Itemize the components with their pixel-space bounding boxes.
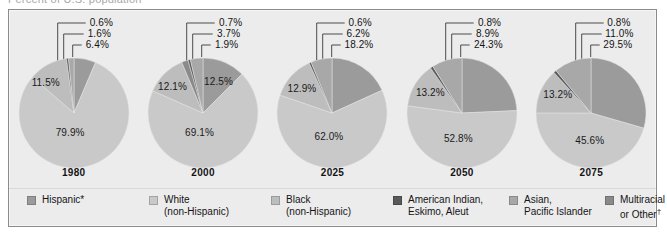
pie-inner-label: 13.2% xyxy=(543,89,572,100)
callout-label: 1.9% xyxy=(215,39,238,50)
legend-label: Multiracialor Other† xyxy=(620,194,665,220)
legend-swatch-icon xyxy=(27,196,36,205)
legend-divider xyxy=(9,188,656,189)
legend-label-line1: Black xyxy=(286,194,351,206)
pie-inner-label: 12.5% xyxy=(204,76,233,87)
legend-item-hispanic[interactable]: Hispanic* xyxy=(27,194,84,206)
callout-group-2050: 0.8%8.9%24.3% xyxy=(397,16,526,58)
callout-label: 24.3% xyxy=(474,39,503,50)
chart-legend: Hispanic*White(non-Hispanic)Black(non-Hi… xyxy=(9,188,656,226)
pie-inner-label: 62.0% xyxy=(314,131,343,142)
pie-inner-label: 52.8% xyxy=(444,133,473,144)
callout-label: 8.9% xyxy=(476,28,499,39)
legend-item-asian[interactable]: Asian,Pacific Islander xyxy=(509,194,592,217)
pie-inner-label: 11.5% xyxy=(32,77,60,88)
legend-label: Hispanic* xyxy=(42,194,84,206)
pie-inner-label: 13.2% xyxy=(416,87,445,98)
legend-label: White(non-Hispanic) xyxy=(164,194,229,217)
pie-inner-label: 69.1% xyxy=(185,127,214,138)
pie-2025: 12.9%62.0% xyxy=(276,57,388,169)
legend-label-line2: Pacific Islander xyxy=(524,206,592,218)
legend-item-multiracial[interactable]: Multiracialor Other† xyxy=(605,194,665,220)
pie-chart-1980: 0.6%1.6%6.4%11.5%79.9%1980 xyxy=(9,10,138,188)
callout-label: 6.4% xyxy=(86,39,109,50)
legend-swatch-icon xyxy=(149,196,158,205)
legend-swatch-icon xyxy=(509,196,518,205)
legend-item-american-indian[interactable]: American Indian,Eskimo, Aleut xyxy=(393,194,483,217)
callout-group-2075: 0.8%11.0%29.5% xyxy=(527,16,656,58)
pie-chart-row: 0.6%1.6%6.4%11.5%79.9%19800.7%3.7%1.9%12… xyxy=(9,10,656,188)
callout-label: 3.7% xyxy=(217,28,240,39)
callout-label: 0.8% xyxy=(607,17,630,28)
pie-2000: 12.1%12.5%69.1% xyxy=(147,57,259,169)
pie-year-label-2000: 2000 xyxy=(138,167,267,178)
legend-swatch-icon xyxy=(271,196,280,205)
callout-group-2025: 0.6%6.2%18.2% xyxy=(268,16,397,58)
clipped-title-text: Percent of U.S. population xyxy=(8,0,142,5)
callout-label: 18.2% xyxy=(344,39,373,50)
legend-dagger-marker: † xyxy=(657,207,661,216)
chart-panel: 0.6%1.6%6.4%11.5%79.9%19800.7%3.7%1.9%12… xyxy=(8,9,657,227)
pie-year-label-2050: 2050 xyxy=(397,167,526,178)
callout-group-2000: 0.7%3.7%1.9% xyxy=(138,16,267,58)
pie-chart-2050: 0.8%8.9%24.3%13.2%52.8%2050 xyxy=(397,10,526,188)
pie-slice-hispanic xyxy=(462,58,517,113)
pie-2050: 13.2%52.8% xyxy=(406,57,518,169)
pie-inner-label: 12.1% xyxy=(158,81,187,92)
legend-label-line1: Asian, xyxy=(524,194,592,206)
legend-label: Black(non-Hispanic) xyxy=(286,194,351,217)
pie-year-label-2025: 2025 xyxy=(268,167,397,178)
callout-label: 1.6% xyxy=(88,28,111,39)
legend-item-white[interactable]: White(non-Hispanic) xyxy=(149,194,229,217)
callout-label: 0.8% xyxy=(478,17,501,28)
legend-label-line1: American Indian, xyxy=(408,194,483,206)
legend-label-line1: White xyxy=(164,194,229,206)
pie-1980: 11.5%79.9% xyxy=(18,57,130,169)
pie-inner-label: 45.6% xyxy=(575,135,604,146)
legend-label-line2: or Other† xyxy=(620,206,665,221)
pie-chart-2075: 0.8%11.0%29.5%13.2%45.6%2075 xyxy=(527,10,656,188)
callout-label: 29.5% xyxy=(603,39,632,50)
pie-inner-label: 12.9% xyxy=(287,83,316,94)
legend-item-black[interactable]: Black(non-Hispanic) xyxy=(271,194,351,217)
legend-label-line2: Eskimo, Aleut xyxy=(408,206,483,218)
legend-label-line2: (non-Hispanic) xyxy=(286,206,351,218)
legend-label-line2: (non-Hispanic) xyxy=(164,206,229,218)
callout-label: 0.6% xyxy=(90,17,113,28)
legend-swatch-icon xyxy=(605,196,614,205)
callout-group-1980: 0.6%1.6%6.4% xyxy=(9,16,138,58)
callout-label: 0.6% xyxy=(348,17,371,28)
pie-2075: 13.2%45.6% xyxy=(535,57,647,169)
pie-year-label-1980: 1980 xyxy=(9,167,138,178)
callout-label: 6.2% xyxy=(346,28,369,39)
legend-label-line1: Hispanic* xyxy=(42,194,84,206)
callout-label: 11.0% xyxy=(605,28,633,39)
pie-chart-2000: 0.7%3.7%1.9%12.1%12.5%69.1%2000 xyxy=(138,10,267,188)
pie-inner-label: 79.9% xyxy=(56,127,85,138)
clipped-title-strip: Percent of U.S. population xyxy=(0,0,667,7)
pie-year-label-2075: 2075 xyxy=(527,167,656,178)
legend-label: Asian,Pacific Islander xyxy=(524,194,592,217)
legend-swatch-icon xyxy=(393,196,402,205)
legend-label-line1: Multiracial xyxy=(620,194,665,206)
callout-label: 0.7% xyxy=(219,17,242,28)
pie-chart-2025: 0.6%6.2%18.2%12.9%62.0%2025 xyxy=(268,10,397,188)
legend-label: American Indian,Eskimo, Aleut xyxy=(408,194,483,217)
